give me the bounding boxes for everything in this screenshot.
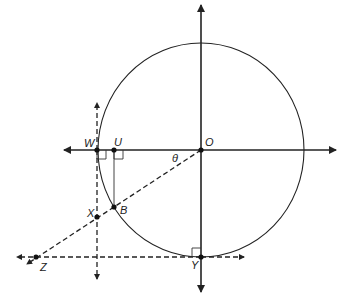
point-o xyxy=(198,147,203,152)
label-o: O xyxy=(205,136,214,148)
label-x: X xyxy=(86,207,95,219)
point-b xyxy=(111,204,116,209)
point-w xyxy=(94,147,99,152)
point-y xyxy=(198,254,203,259)
point-u xyxy=(111,147,116,152)
geometry-diagram: W U O θ X B Y Z xyxy=(0,0,349,298)
label-theta: θ xyxy=(172,152,178,164)
label-w: W xyxy=(84,137,96,149)
label-b: B xyxy=(120,204,127,216)
point-z xyxy=(33,254,38,259)
label-z: Z xyxy=(39,261,48,273)
label-u: U xyxy=(114,136,122,148)
point-x xyxy=(94,214,99,219)
label-y: Y xyxy=(191,259,199,271)
